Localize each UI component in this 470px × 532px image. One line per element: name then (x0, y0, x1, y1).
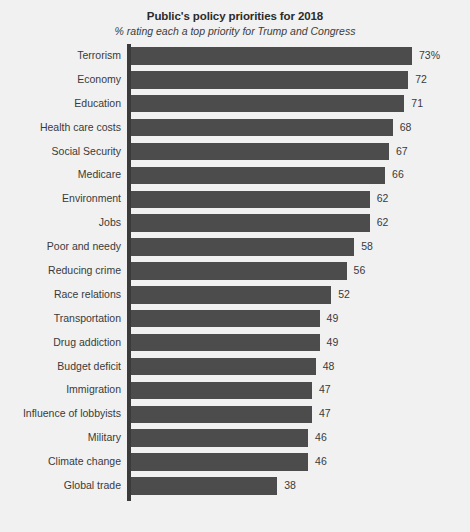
bar-row: Military46 (0, 426, 470, 450)
category-label: Immigration (66, 378, 121, 402)
bar-container: 52 (131, 283, 470, 307)
bar (131, 95, 404, 113)
bar-row: Economy72 (0, 68, 470, 92)
value-label: 73% (419, 44, 440, 68)
bar-container: 68 (131, 116, 470, 140)
category-label: Jobs (99, 211, 121, 235)
category-label: Health care costs (40, 116, 121, 140)
bar (131, 143, 389, 161)
bar-container: 49 (131, 307, 470, 331)
bar (131, 429, 308, 447)
bar-row: Influence of lobbyists47 (0, 402, 470, 426)
bar-container: 73% (131, 44, 470, 68)
value-label: 56 (354, 259, 366, 283)
category-label: Military (88, 426, 121, 450)
bar-row: Social Security67 (0, 140, 470, 164)
bar-row: Climate change46 (0, 450, 470, 474)
value-label: 48 (323, 355, 335, 379)
bar-container: 49 (131, 331, 470, 355)
bar-container: 47 (131, 378, 470, 402)
bar-container: 72 (131, 68, 470, 92)
category-label: Education (74, 92, 121, 116)
category-label: Global trade (64, 474, 121, 498)
value-label: 62 (377, 211, 389, 235)
bar (131, 358, 316, 376)
bar-container: 58 (131, 235, 470, 259)
bar (131, 191, 370, 209)
bar (131, 286, 331, 304)
value-label: 68 (400, 116, 412, 140)
bar-row: Drug addiction49 (0, 331, 470, 355)
value-label: 52 (338, 283, 350, 307)
bar-container: 56 (131, 259, 470, 283)
value-label: 49 (327, 307, 339, 331)
category-label: Drug addiction (53, 331, 121, 355)
bar-container: 47 (131, 402, 470, 426)
category-label: Transportation (54, 307, 121, 331)
bar-row: Global trade38 (0, 474, 470, 498)
bar-row: Health care costs68 (0, 116, 470, 140)
bar-container: 67 (131, 140, 470, 164)
value-label: 47 (319, 402, 331, 426)
category-label: Terrorism (77, 44, 121, 68)
category-label: Budget deficit (57, 355, 121, 379)
bar-chart: Public's policy priorities for 2018 % ra… (0, 0, 470, 532)
bar (131, 71, 408, 89)
bar-container: 38 (131, 474, 470, 498)
category-label: Reducing crime (48, 259, 121, 283)
bar-container: 62 (131, 211, 470, 235)
chart-title: Public's policy priorities for 2018 (0, 9, 470, 23)
bar (131, 238, 354, 256)
bar (131, 406, 312, 424)
bar (131, 453, 308, 471)
bar-container: 46 (131, 450, 470, 474)
bar-row: Poor and needy58 (0, 235, 470, 259)
bar (131, 47, 412, 65)
value-label: 38 (284, 474, 296, 498)
bar-row: Environment62 (0, 187, 470, 211)
bar-container: 46 (131, 426, 470, 450)
bar-container: 48 (131, 355, 470, 379)
value-label: 72 (415, 68, 427, 92)
bar-row: Medicare66 (0, 163, 470, 187)
chart-subtitle: % rating each a top priority for Trump a… (0, 24, 470, 38)
category-label: Economy (77, 68, 121, 92)
category-label: Influence of lobbyists (23, 402, 121, 426)
bar (131, 167, 385, 185)
bar (131, 119, 393, 137)
plot-area: Terrorism73%Economy72Education71Health c… (0, 44, 470, 504)
category-label: Medicare (78, 163, 121, 187)
value-label: 49 (327, 331, 339, 355)
bar (131, 214, 370, 232)
bar-rows: Terrorism73%Economy72Education71Health c… (0, 44, 470, 498)
bar-row: Race relations52 (0, 283, 470, 307)
bar-row: Jobs62 (0, 211, 470, 235)
bar (131, 262, 347, 280)
value-label: 46 (315, 426, 327, 450)
bar (131, 477, 277, 495)
value-label: 62 (377, 187, 389, 211)
value-label: 71 (411, 92, 423, 116)
bar-row: Budget deficit48 (0, 355, 470, 379)
bar-container: 66 (131, 163, 470, 187)
bar-container: 62 (131, 187, 470, 211)
category-label: Race relations (54, 283, 121, 307)
category-label: Environment (62, 187, 121, 211)
bar-container: 71 (131, 92, 470, 116)
bar-row: Terrorism73% (0, 44, 470, 68)
category-label: Social Security (52, 140, 121, 164)
value-label: 47 (319, 378, 331, 402)
value-label: 46 (315, 450, 327, 474)
bar-row: Immigration47 (0, 378, 470, 402)
chart-header: Public's policy priorities for 2018 % ra… (0, 9, 470, 38)
bar-row: Transportation49 (0, 307, 470, 331)
bar (131, 310, 320, 328)
bar-row: Reducing crime56 (0, 259, 470, 283)
bar (131, 334, 320, 352)
category-label: Climate change (48, 450, 121, 474)
bar-row: Education71 (0, 92, 470, 116)
value-label: 58 (361, 235, 373, 259)
bar (131, 382, 312, 400)
category-label: Poor and needy (47, 235, 121, 259)
value-label: 66 (392, 163, 404, 187)
